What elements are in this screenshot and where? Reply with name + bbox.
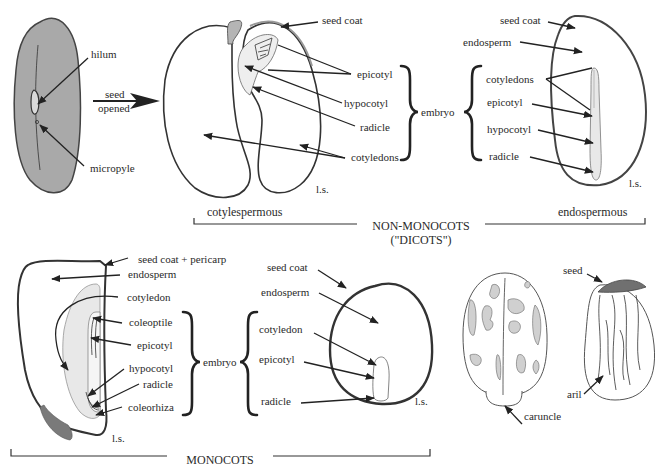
epicotyl-label: epicotyl: [487, 96, 522, 108]
onion-embryo-shape: [373, 357, 389, 401]
bean-seed-shape: [14, 18, 80, 192]
radicle-label: radicle: [261, 395, 291, 407]
seed-label: seed: [563, 264, 583, 276]
caruncle-label: caruncle: [524, 410, 561, 422]
caruncle-shape: [486, 391, 522, 406]
section-label: l.s.: [415, 395, 428, 407]
seed-anatomy-diagram: hilum micropyle seed opened seed coat ep…: [0, 0, 669, 476]
seed-coat-arrow-icon: [318, 270, 346, 288]
transition-label-line1: seed: [105, 88, 125, 100]
onion-seed: seed coat endosperm cotyledon epicotyl r…: [259, 261, 432, 407]
non-monocots-group: cotylespermous endospermous NON-MONOCOTS…: [194, 205, 645, 247]
aril-label: aril: [567, 388, 582, 400]
cotylespermous-subtitle: cotylespermous: [207, 205, 283, 219]
endospermous-seed: seed coat endosperm cotyledons epicotyl …: [463, 14, 646, 189]
radicle-label: radicle: [489, 150, 519, 162]
epicotyl-label: epicotyl: [137, 339, 172, 351]
cotyledon-label: cotyledon: [259, 323, 303, 335]
section-label: l.s.: [112, 432, 125, 444]
castor-seed: caruncle: [463, 273, 561, 424]
seed-coat-arrow-icon: [281, 22, 318, 27]
seed-arrow-icon: [587, 274, 602, 282]
embryo-axis-shape: [88, 312, 100, 412]
embryo-label: embryo: [421, 106, 455, 118]
cotyledons-label: cotyledons: [351, 151, 399, 163]
epicotyl-label: epicotyl: [357, 68, 392, 80]
seed-coat-label: seed coat: [500, 14, 541, 26]
epicotyl-label: epicotyl: [259, 353, 294, 365]
monocots-group: MONOCOTS: [11, 449, 430, 467]
embryo-bracket-dicots: embryo: [401, 66, 481, 160]
seed-coat-label: seed coat: [322, 14, 363, 26]
endosperm-label: endosperm: [261, 286, 310, 298]
hypocotyl-label: hypocotyl: [487, 123, 531, 135]
micropyle-label: micropyle: [90, 162, 135, 174]
seed-cap-shape: [598, 280, 646, 292]
left-brace-icon: [464, 66, 481, 160]
left-brace-icon: [240, 312, 257, 415]
right-brace-icon: [183, 312, 200, 415]
caruncle-arrow-icon: [505, 406, 522, 424]
hypocotyl-label: hypocotyl: [344, 97, 388, 109]
cotyledons-label: cotyledons: [486, 73, 534, 85]
dicots-subtitle: ("DICOTS"): [390, 233, 451, 247]
section-label: l.s.: [629, 177, 642, 189]
embryo-bracket-monocots: embryo: [183, 312, 257, 415]
transition-label-line2: opened: [98, 102, 130, 114]
endosperm-label: endosperm: [128, 268, 177, 280]
non-monocots-title: NON-MONOCOTS: [372, 219, 469, 233]
right-brace-icon: [401, 66, 418, 160]
hypocotyl-label: hypocotyl: [129, 362, 173, 374]
monocots-title: MONOCOTS: [186, 453, 253, 467]
seed-coat-label: seed coat: [267, 261, 308, 273]
cotylespermous-seed: seed coat epicotyl hypocotyl radicle cot…: [164, 14, 399, 197]
endospermous-subtitle: endospermous: [558, 205, 628, 219]
left-cotyledon-shape: [164, 26, 251, 198]
section-label: l.s.: [316, 183, 329, 195]
seed-opened-transition: seed opened: [93, 88, 160, 114]
radicle-label: radicle: [360, 121, 390, 133]
coleoptile-label: coleoptile: [129, 316, 172, 328]
seed-coat-pericarp-arrow-icon: [105, 258, 128, 265]
arillate-seed: seed aril: [563, 264, 655, 400]
group-bar-right: [273, 449, 430, 456]
radicle-label: radicle: [143, 378, 173, 390]
coleorhiza-label: coleorhiza: [128, 401, 174, 413]
seed-coat-flap: [228, 20, 242, 44]
seed-coat-pericarp-label: seed coat + pericarp: [138, 253, 227, 265]
endosperm-label: endosperm: [463, 36, 512, 48]
hilum-label: hilum: [91, 48, 117, 60]
cotyledon-label: cotyledon: [127, 291, 171, 303]
grass-grain: seed coat + pericarp endosperm cotyledon…: [18, 253, 227, 444]
hilum-shape: [31, 90, 39, 114]
group-bar-left: [11, 449, 167, 456]
aril-outline: [584, 285, 654, 400]
embryo-label: embryo: [203, 356, 237, 368]
